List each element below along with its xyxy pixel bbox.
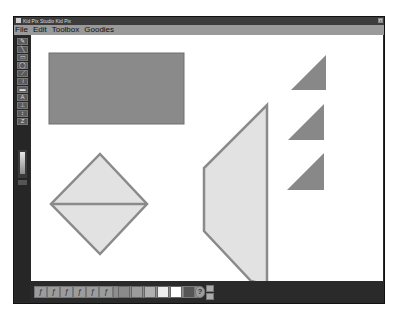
app-icon — [16, 18, 21, 23]
close-button[interactable]: x — [378, 18, 383, 23]
scroll-down-button[interactable] — [206, 293, 214, 300]
menu-file[interactable]: File — [15, 25, 28, 35]
swatch-near-white[interactable] — [157, 286, 169, 298]
pencil-tool[interactable]: ✎ — [17, 38, 28, 45]
swatch-white[interactable] — [170, 286, 182, 298]
scroll-up-button[interactable] — [206, 285, 214, 292]
paint-can-tool[interactable]: ⟋ — [17, 70, 28, 77]
brush-option-1[interactable]: ƒ — [34, 286, 47, 298]
triangle-top — [291, 55, 326, 90]
brush-option-4[interactable]: ƒ — [73, 286, 86, 298]
triangle-middle — [288, 104, 324, 140]
gray-rectangle — [49, 53, 184, 124]
oval-tool[interactable]: ◯ — [17, 62, 28, 69]
slider-knob[interactable] — [20, 152, 25, 174]
line-tool[interactable]: ╲ — [17, 46, 28, 53]
title-bar: Kid Pix Studio Kid Pix x — [14, 17, 384, 25]
brush-option-3[interactable]: ƒ — [60, 286, 73, 298]
toolbox: ✎ ╲ ▭ ◯ ⟋ ≀ ▬ A ⊥ ↕ Z — [15, 36, 30, 302]
brush-option-5[interactable]: ƒ — [86, 286, 99, 298]
option-palette: ƒ ƒ ƒ ƒ ƒ ƒ ? — [31, 282, 383, 303]
drawing-canvas[interactable] — [31, 35, 383, 281]
brush-option-6[interactable]: ƒ — [99, 286, 113, 298]
help-button[interactable]: ? — [195, 286, 205, 298]
window-title: Kid Pix Studio Kid Pix — [23, 17, 71, 25]
slider-indicator — [18, 180, 27, 185]
move-tool[interactable]: ↕ — [17, 110, 28, 117]
wacky-brush-tool[interactable]: ≀ — [17, 78, 28, 85]
swatch-gray[interactable] — [131, 286, 143, 298]
text-tool[interactable]: A — [17, 94, 28, 101]
stamp-tool[interactable]: ⊥ — [17, 102, 28, 109]
brush-option-2[interactable]: ƒ — [47, 286, 60, 298]
eraser-tool[interactable]: ▬ — [17, 86, 28, 93]
menu-toolbox[interactable]: Toolbox — [52, 25, 80, 35]
swatch-dark-gray[interactable] — [118, 286, 130, 298]
triangle-bottom — [287, 153, 324, 190]
kid-pix-window: Kid Pix Studio Kid Pix x File Edit Toolb… — [13, 16, 385, 304]
menu-goodies[interactable]: Goodies — [84, 25, 114, 35]
menu-bar: File Edit Toolbox Goodies — [14, 25, 384, 35]
menu-edit[interactable]: Edit — [33, 25, 47, 35]
trapezoid-shape — [204, 105, 267, 281]
rectangle-tool[interactable]: ▭ — [17, 54, 28, 61]
pattern-swatch[interactable] — [183, 286, 195, 298]
size-slider[interactable] — [18, 150, 27, 178]
undo-tool[interactable]: Z — [17, 118, 28, 125]
canvas-drawing — [31, 35, 383, 281]
swatch-light-gray[interactable] — [144, 286, 156, 298]
